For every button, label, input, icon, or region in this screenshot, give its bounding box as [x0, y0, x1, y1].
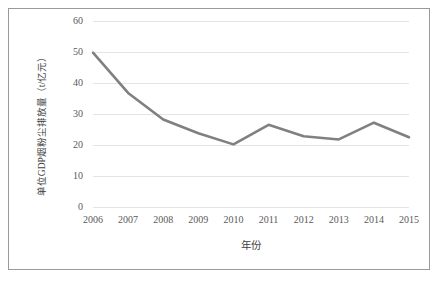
- x-tick-label: 2008: [143, 214, 183, 226]
- y-tick-label: 0: [57, 202, 83, 212]
- x-tick-label: 2006: [73, 214, 113, 226]
- x-tick-label: 2013: [319, 214, 359, 226]
- series-line-path: [93, 53, 409, 145]
- figure-frame: 单位GDP烟粉尘排放量（t/亿元） 0102030405060 20062007…: [8, 8, 430, 270]
- x-axis-tick-labels: 2006200720082009201020112012201320142015: [93, 214, 409, 230]
- y-axis-tick-labels: 0102030405060: [53, 9, 83, 269]
- gridline: [93, 207, 409, 208]
- x-tick-label: 2009: [178, 214, 218, 226]
- y-axis-title: 单位GDP烟粉尘排放量（t/亿元）: [34, 34, 48, 214]
- y-tick-label: 40: [57, 78, 83, 88]
- x-tick-label: 2007: [108, 214, 148, 226]
- series-line-svg: [93, 21, 409, 207]
- x-tick-label: 2015: [389, 214, 429, 226]
- x-tick-label: 2012: [284, 214, 324, 226]
- x-tick-label: 2014: [354, 214, 394, 226]
- plot-area: [93, 21, 409, 207]
- x-tick-label: 2010: [213, 214, 253, 226]
- y-tick-label: 30: [57, 109, 83, 119]
- x-axis-title: 年份: [93, 237, 409, 252]
- x-tick-label: 2011: [249, 214, 289, 226]
- line-chart: 单位GDP烟粉尘排放量（t/亿元） 0102030405060 20062007…: [9, 9, 429, 269]
- y-tick-label: 50: [57, 47, 83, 57]
- y-tick-label: 10: [57, 171, 83, 181]
- y-tick-label: 20: [57, 140, 83, 150]
- y-tick-label: 60: [57, 16, 83, 26]
